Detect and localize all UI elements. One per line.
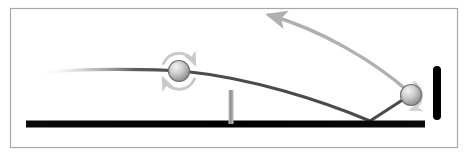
ball-left — [169, 61, 190, 82]
ground-surface — [26, 121, 425, 128]
ball-spin-bounce-figure — [0, 0, 468, 157]
diagram-canvas — [0, 0, 468, 157]
descending-trajectory-path — [186, 72, 370, 122]
ball-right — [401, 85, 422, 106]
net-post — [229, 90, 234, 124]
wall-paddle — [433, 66, 441, 120]
rebound-direction-arrow — [269, 15, 409, 92]
rebound-trajectory-path — [370, 99, 404, 121]
incoming-trajectory-path — [38, 69, 172, 73]
